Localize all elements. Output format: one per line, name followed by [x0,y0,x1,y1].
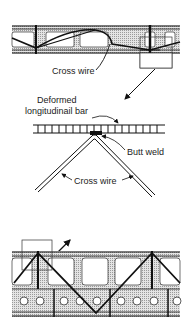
arrow-to-detail [125,69,155,99]
label-cross-wire-top: Cross wire [52,66,95,76]
bottom-panel-section [12,240,181,317]
label-deformed-line1: Deformed [37,95,77,105]
label-butt-weld: Butt weld [127,147,164,157]
top-panel-section [12,25,180,70]
reinforcement-diagram [0,0,190,331]
label-cross-wire-detail: Cross wire [74,176,117,186]
label-deformed-line2: longitudinail bar [25,106,88,116]
